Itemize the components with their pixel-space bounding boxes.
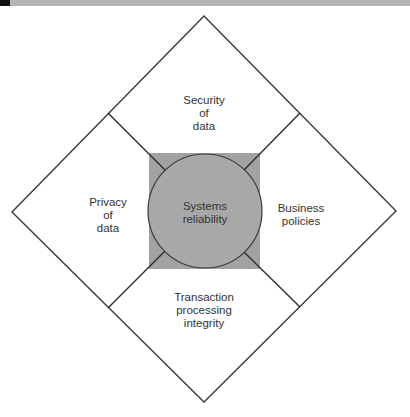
quadrant-label-bottom: Transaction processing integrity [174, 291, 234, 330]
quadrant-label-right: Business policies [278, 202, 325, 228]
center-label: Systems reliability [183, 200, 228, 226]
quadrant-label-top: Security of data [183, 94, 225, 133]
quadrant-label-left: Privacy of data [89, 196, 127, 235]
diagram-canvas: Security of data Privacy of data Busines… [0, 0, 410, 417]
